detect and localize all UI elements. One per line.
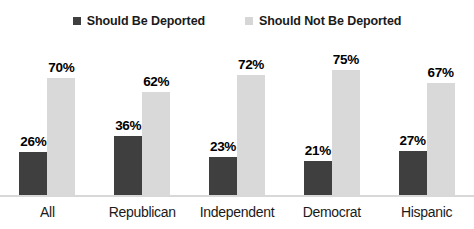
bar-column: 72%	[237, 0, 265, 196]
bar-should-be-deported	[114, 136, 142, 196]
bar-should-be-deported	[19, 152, 47, 196]
bar-column: 27%	[399, 0, 427, 196]
category-label-hispanic: Hispanic	[379, 199, 474, 229]
bar-value-label: 36%	[115, 119, 141, 133]
bar-pair: 21%75%	[284, 0, 379, 196]
category-label-republican: Republican	[95, 199, 190, 229]
bar-value-label: 27%	[400, 134, 426, 148]
bar-column: 62%	[142, 0, 170, 196]
bar-chart: Should Be Deported Should Not Be Deporte…	[0, 0, 474, 229]
bar-pair: 36%62%	[95, 0, 190, 196]
category-label-independent: Independent	[190, 199, 285, 229]
bar-group: 26%70%	[0, 0, 95, 196]
bar-value-label: 72%	[238, 58, 264, 72]
bar-pair: 23%72%	[190, 0, 285, 196]
bar-column: 70%	[47, 0, 75, 196]
bar-group: 21%75%	[284, 0, 379, 196]
bar-column: 26%	[19, 0, 47, 196]
bar-should-be-deported	[209, 157, 237, 196]
bar-column: 67%	[427, 0, 455, 196]
bar-should-be-deported	[399, 151, 427, 196]
category-label-all: All	[0, 199, 95, 229]
bar-group: 27%67%	[379, 0, 474, 196]
bar-value-label: 75%	[333, 53, 359, 67]
bar-value-label: 67%	[428, 66, 454, 80]
bar-pair: 27%67%	[379, 0, 474, 196]
bar-should-not-be-deported	[237, 75, 265, 196]
bar-value-label: 70%	[48, 61, 74, 75]
bar-should-not-be-deported	[332, 70, 360, 196]
category-label-democrat: Democrat	[284, 199, 379, 229]
bar-should-be-deported	[304, 161, 332, 196]
category-axis: AllRepublicanIndependentDemocratHispanic	[0, 199, 474, 229]
bar-value-label: 21%	[305, 144, 331, 158]
bar-should-not-be-deported	[427, 83, 455, 196]
bar-column: 36%	[114, 0, 142, 196]
bar-group: 36%62%	[95, 0, 190, 196]
bar-groups: 26%70%36%62%23%72%21%75%27%67%	[0, 0, 474, 196]
bar-should-not-be-deported	[47, 78, 75, 196]
bar-group: 23%72%	[190, 0, 285, 196]
bar-pair: 26%70%	[0, 0, 95, 196]
bar-value-label: 26%	[20, 135, 46, 149]
axis-baseline	[0, 195, 474, 197]
bar-should-not-be-deported	[142, 92, 170, 196]
plot-area: 26%70%36%62%23%72%21%75%27%67%	[0, 0, 474, 196]
bar-column: 75%	[332, 0, 360, 196]
bar-column: 23%	[209, 0, 237, 196]
bar-value-label: 62%	[143, 75, 169, 89]
bar-value-label: 23%	[210, 140, 236, 154]
bar-column: 21%	[304, 0, 332, 196]
